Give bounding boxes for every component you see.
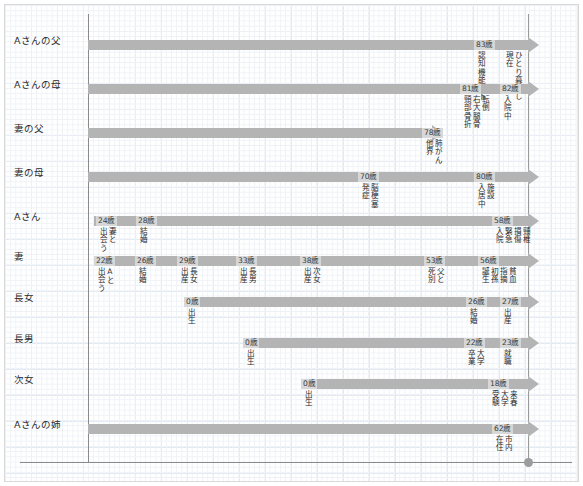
event-text-column: 結婚 [468, 308, 476, 325]
age-marker-6-7: 56歳 [478, 256, 499, 266]
event-text-column: 入院 [494, 227, 502, 244]
row-label-8: 長男 [14, 334, 86, 344]
event-text-column: 在住 [494, 435, 502, 452]
present-time-marker-dot [524, 458, 533, 467]
event-annotation-6-3: 長女出産 [178, 267, 196, 284]
event-text-column: 出産 [179, 267, 187, 284]
age-marker-6-1: 22歳 [94, 256, 115, 266]
event-annotation-7-1: 出生 [185, 308, 194, 325]
timeline-bar-10 [88, 424, 528, 434]
age-marker-5-2: 28歳 [136, 216, 157, 226]
event-annotation-8-1: 出生 [244, 349, 253, 366]
event-text-column: 長男 [247, 267, 255, 284]
event-annotation-6-6: 父と死別 [425, 267, 443, 284]
event-annotation-5-2: 結婚 [137, 227, 146, 244]
event-text-column: 出産 [238, 267, 246, 284]
timeline-bar-4 [88, 172, 528, 182]
age-marker-6-6: 53歳 [424, 256, 445, 266]
event-annotation-2-1: 転倒右大腿骨頸部骨折 [461, 95, 489, 128]
event-text-column: 出生 [186, 308, 194, 325]
event-annotation-4-1: 脳梗塞発症 [359, 183, 377, 208]
age-marker-5-3: 58歳 [492, 216, 513, 226]
event-annotation-8-2: 大学卒業 [465, 349, 483, 366]
age-marker-6-3: 29歳 [177, 256, 198, 266]
event-annotation-8-3: 就職 [501, 349, 510, 366]
event-text-column: 損傷 [512, 227, 520, 244]
event-text-column: 就職 [502, 349, 510, 366]
event-text-column: 緊急 [503, 227, 511, 244]
event-text-column: 結婚 [138, 227, 146, 244]
age-marker-3-1: 78歳 [422, 128, 443, 138]
event-text-column: Aと [105, 267, 113, 285]
event-text-column: 肺がん [433, 139, 441, 164]
row-label-4: 妻の母 [14, 168, 86, 178]
age-marker-4-2: 80歳 [474, 172, 495, 182]
event-text-column: 出会う [96, 267, 104, 292]
row-label-3: 妻の父 [14, 124, 86, 134]
age-marker-9-1: 0歳 [301, 379, 317, 389]
event-annotation-5-1: 妻と出会う [97, 227, 115, 252]
age-marker-7-1: 0歳 [184, 297, 200, 307]
row-label-6: 妻 [14, 252, 86, 262]
event-annotation-9-1: 出生 [302, 390, 311, 407]
age-marker-8-1: 0歳 [243, 338, 259, 348]
row-label-1: Aさんの父 [14, 36, 86, 46]
event-text-column: 他界 [424, 139, 432, 156]
event-text-column: 大学 [499, 390, 507, 407]
event-text-column: 出産 [302, 267, 310, 284]
age-marker-6-2: 26歳 [135, 256, 156, 266]
origin-axis-line [88, 14, 89, 462]
event-text-column: 貧血 [508, 267, 516, 284]
event-text-column: 入院中 [502, 95, 510, 120]
timeline-bar-8 [243, 338, 528, 348]
age-marker-6-5: 38歳 [300, 256, 321, 266]
event-annotation-7-2: 結婚 [467, 308, 476, 325]
event-text-column: 出生 [245, 349, 253, 366]
event-text-column: 誕生 [480, 267, 488, 284]
event-annotation-6-1: Aと出会う [95, 267, 113, 292]
event-annotation-6-4: 長男出産 [237, 267, 255, 284]
event-text-column: 頸椎 [522, 227, 530, 244]
event-text-column: 受験 [490, 390, 498, 407]
event-text-column: 頸部骨折 [462, 95, 470, 128]
age-marker-7-3: 27歳 [500, 297, 521, 307]
event-annotation-9-2: 来春大学受験 [489, 390, 517, 407]
event-text-column: 出生 [303, 390, 311, 407]
life-course-timeline-chart: Aさんの父83歳認知機能低下ひとり暮らし現在Aさんの母81歳転倒右大腿骨頸部骨折… [0, 0, 583, 486]
age-marker-2-2: 82歳 [500, 84, 521, 94]
event-annotation-10-1: 市内在住 [493, 435, 511, 452]
event-annotation-3-1: 肺がん他界 [423, 139, 441, 164]
event-annotation-2-2: 入院中 [501, 95, 510, 120]
event-text-column: 次女 [311, 267, 319, 284]
event-text-column: 大学 [475, 349, 483, 366]
age-marker-4-1: 70歳 [358, 172, 379, 182]
event-annotation-6-7: 貧血指摘初孫誕生 [479, 267, 516, 284]
age-marker-9-2: 18歳 [488, 379, 509, 389]
age-marker-8-3: 23歳 [500, 338, 521, 348]
age-marker-8-2: 22歳 [464, 338, 485, 348]
event-text-column: 脳梗塞 [369, 183, 377, 208]
row-label-9: 次女 [14, 375, 86, 385]
event-annotation-6-2: 結婚 [136, 267, 145, 284]
bottom-axis-line [20, 462, 572, 463]
event-text-column: 出産 [502, 308, 510, 325]
event-text-column: 市内 [503, 435, 511, 452]
timeline-bar-5 [94, 216, 528, 226]
event-text-column: 指摘 [498, 267, 506, 284]
event-text-column: 結婚 [137, 267, 145, 284]
row-label-2: Aさんの母 [14, 80, 86, 90]
event-text-column: 初孫 [489, 267, 497, 284]
event-annotation-4-2: 施設入居中 [475, 183, 493, 208]
age-marker-6-4: 33歳 [236, 256, 257, 266]
event-text-column: 入居中 [476, 183, 484, 208]
event-text-column: 来春 [508, 390, 516, 407]
age-marker-5-1: 24歳 [96, 216, 117, 226]
event-text-column: 妻と [107, 227, 115, 244]
age-marker-1-1: 83歳 [474, 40, 495, 50]
event-text-column: 発症 [360, 183, 368, 200]
timeline-bar-3 [88, 128, 432, 138]
event-text-column: 右大腿骨 [471, 95, 479, 128]
age-marker-2-1: 81歳 [460, 84, 481, 94]
row-label-7: 長女 [14, 293, 86, 303]
age-marker-7-2: 26歳 [466, 297, 487, 307]
